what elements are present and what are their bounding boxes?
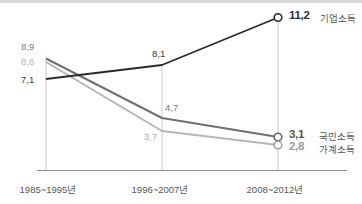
endpoint-marker-household (274, 141, 282, 149)
point-label-national-2: 4,7 (165, 102, 178, 113)
income-growth-line-chart: 8,9 8,6 7,1 8,1 4,7 3,7 11,2 3,1 2,8 기업소… (0, 0, 362, 204)
end-value-label-national: 3,1 (289, 129, 304, 140)
x-axis-label-3: 2008~2012년 (235, 182, 315, 196)
x-axis-label-2: 1996~2007년 (120, 182, 200, 196)
point-label-household-2: 3,7 (144, 131, 157, 142)
series-label-national: 국민소득 (319, 131, 355, 142)
endpoint-marker-national (274, 133, 282, 141)
end-value-label-corporate: 11,2 (289, 10, 310, 21)
chart-canvas (0, 0, 362, 204)
series-label-household: 가계소득 (319, 144, 355, 155)
series-label-corporate: 기업소득 (320, 13, 356, 24)
point-label-national-1: 8,9 (21, 41, 34, 52)
end-value-label-household: 2,8 (289, 141, 304, 152)
x-axis-label-1: 1985~1995년 (8, 182, 88, 196)
point-label-household-1: 8,6 (21, 56, 34, 67)
point-label-corporate-2: 8,1 (152, 48, 165, 59)
point-label-corporate-1: 7,1 (21, 74, 34, 85)
endpoint-marker-corporate (274, 14, 282, 22)
